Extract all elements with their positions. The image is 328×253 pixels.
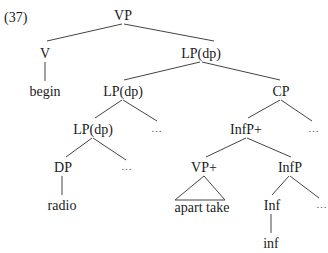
node-v: V (40, 46, 50, 61)
leaf-apart-take: apart take (175, 200, 230, 215)
node-dp: DP (54, 160, 72, 175)
node-inf: Inf (264, 198, 281, 213)
example-number: (37) (4, 10, 28, 26)
ellipsis-lp3: … (121, 160, 133, 172)
node-lp-dp-2: LP(dp) (103, 84, 143, 100)
node-lp-dp-1: LP(dp) (181, 46, 221, 62)
leaf-radio: radio (48, 198, 77, 213)
syntax-tree: (37) VP V begin LP(dp) LP(dp) CP LP(dp) … (0, 0, 328, 253)
ellipsis-infp: … (316, 198, 328, 210)
node-infp-plus: InfP+ (230, 122, 262, 137)
node-lp-dp-3: LP(dp) (73, 122, 113, 138)
node-infp: InfP (278, 160, 302, 175)
leaf-inf: inf (263, 236, 279, 251)
node-cp: CP (272, 84, 289, 99)
leaf-begin: begin (29, 84, 60, 99)
ellipsis-lp2: … (151, 122, 163, 134)
ellipsis-cp: … (308, 122, 320, 134)
node-vp-plus: VP+ (191, 160, 217, 175)
node-vp: VP (114, 8, 132, 23)
